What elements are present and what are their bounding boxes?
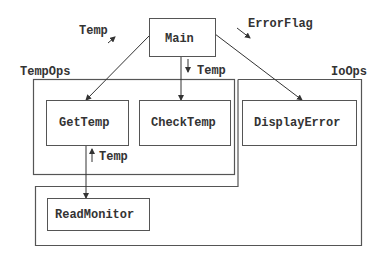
checktemp-module-label: CheckTemp <box>151 117 216 129</box>
readmonitor-module[interactable]: ReadMonitor <box>47 198 150 231</box>
flow-label-main-gettemp: Temp <box>79 25 108 37</box>
main-module-label: Main <box>165 33 194 45</box>
displayerror-module[interactable]: DisplayError <box>242 100 357 146</box>
main-module[interactable]: Main <box>149 18 216 57</box>
flow-label-readmonitor-gettemp: Temp <box>99 151 128 163</box>
edge-main-displayerror <box>215 34 302 100</box>
flow-arrow-temp-up-left <box>108 37 115 43</box>
edge-main-gettemp <box>86 36 149 100</box>
gettemp-module[interactable]: GetTemp <box>46 100 129 146</box>
readmonitor-module-label: ReadMonitor <box>55 209 134 221</box>
displayerror-module-label: DisplayError <box>254 117 340 129</box>
flow-label-main-displayerror: ErrorFlag <box>248 18 313 30</box>
gettemp-module-label: GetTemp <box>59 117 109 129</box>
ioops-group-label: IoOps <box>331 66 367 78</box>
tempops-group-label: TempOps <box>20 66 70 78</box>
checktemp-module[interactable]: CheckTemp <box>139 100 231 146</box>
flow-label-main-checktemp: Temp <box>197 65 226 77</box>
